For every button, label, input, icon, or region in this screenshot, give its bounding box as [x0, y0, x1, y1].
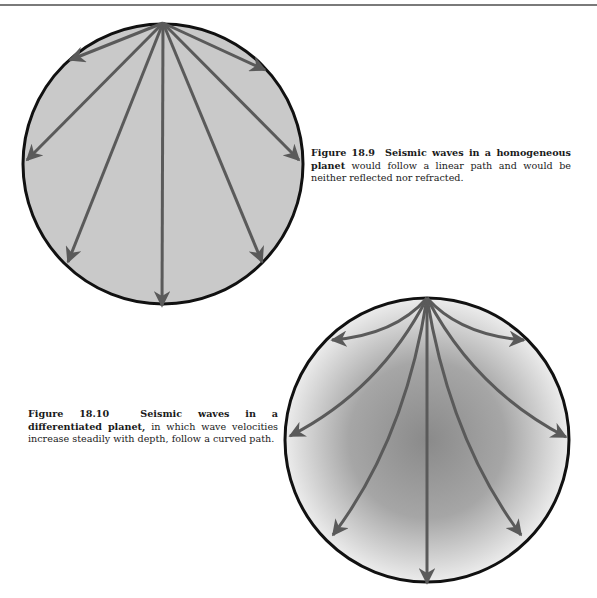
homogeneous-planet-diagram: [23, 23, 303, 306]
caption-label: Figure 18.10: [28, 408, 109, 419]
figure-18-9-caption: Figure 18.9 Seismic waves in a homogeneo…: [311, 147, 571, 185]
caption-title-cont: planet,: [108, 421, 145, 432]
caption-title-cont: planet: [311, 160, 345, 171]
figures-canvas: [0, 0, 597, 598]
differentiated-planet-diagram: [285, 298, 569, 583]
figure-18-10-caption: Figure 18.10 Seismic waves in a differen…: [28, 408, 278, 446]
caption-title: Seismic waves in a homogeneous: [385, 147, 571, 158]
caption-body: would follow a linear path and would be …: [311, 160, 571, 184]
caption-label: Figure 18.9: [311, 147, 375, 158]
